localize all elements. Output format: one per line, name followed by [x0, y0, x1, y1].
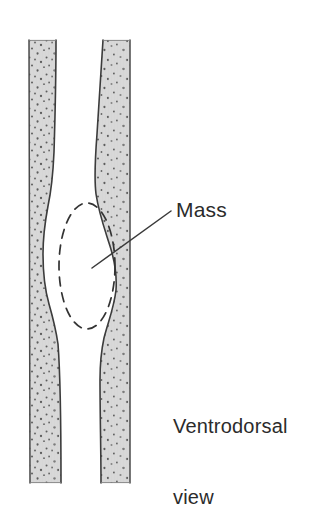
left-tissue-outer-edge: [29, 40, 30, 483]
left-tissue-band: [29, 40, 61, 483]
left-tissue-band-striation: [29, 40, 61, 483]
mass-label: Mass: [176, 198, 227, 223]
view-caption-line-2: view: [173, 486, 288, 510]
view-caption-line-1: Ventrodorsal: [173, 415, 288, 439]
view-caption: Ventrodorsal view: [173, 368, 288, 521]
figure-root: Mass Ventrodorsal view: [0, 0, 331, 521]
